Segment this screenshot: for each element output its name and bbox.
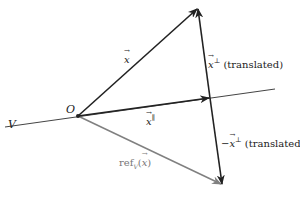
vector-x-parallel <box>78 98 209 116</box>
origin-point <box>76 114 80 118</box>
label-V: V <box>8 119 16 130</box>
label-reflection: refV(x) <box>119 158 151 170</box>
label-neg-perp-translated: −x⊥ (translated) <box>221 137 300 149</box>
label-origin: O <box>66 104 75 115</box>
label-perp-translated: x⊥ (translated) <box>208 58 283 70</box>
label-vector-x-parallel: x∥ <box>146 115 155 127</box>
vector-x-symbol: x <box>124 54 130 65</box>
reflection-diagram: V O x x∥ x⊥ (translated) −x⊥ (translated… <box>0 0 300 199</box>
vector-x <box>78 9 197 116</box>
label-vector-x: x <box>124 55 130 65</box>
